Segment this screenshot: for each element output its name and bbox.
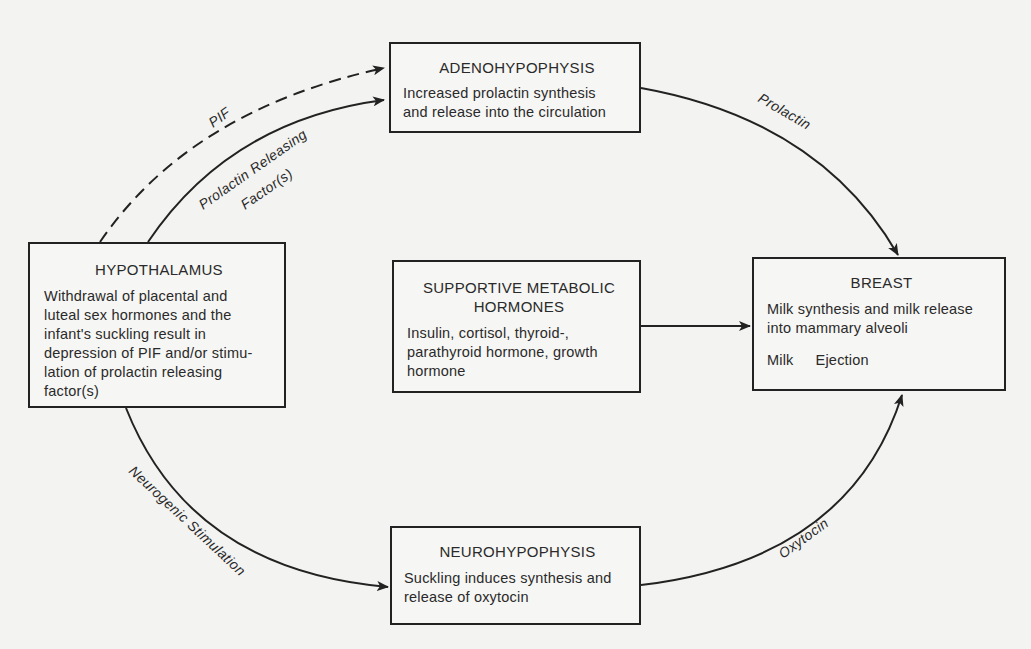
neurohypophysis-line: release of oxytocin xyxy=(404,588,631,607)
neurohypophysis-description: Suckling induces synthesis and release o… xyxy=(404,569,631,607)
milk-word: Milk xyxy=(767,352,794,368)
breast-description: Milk synthesis and milk release into mam… xyxy=(767,300,996,338)
supportive-title-line: HORMONES xyxy=(407,297,631,316)
oxytocin-arrow xyxy=(641,395,902,585)
prolactin-arrow xyxy=(641,88,898,255)
neurohypophysis-line: Suckling induces synthesis and xyxy=(404,569,631,588)
supportive-line: parathyroid hormone, growth xyxy=(407,343,631,362)
hypothalamus-line: lation of prolactin releasing xyxy=(44,363,274,382)
hypothalamus-line: depression of PIF and/or stimu- xyxy=(44,344,274,363)
pif-arrow xyxy=(100,68,384,242)
breast-title: BREAST xyxy=(767,273,996,292)
hypothalamus-description: Withdrawal of placental and luteal sex h… xyxy=(44,287,274,401)
supportive-line: hormone xyxy=(407,362,631,381)
breast-line: Milk synthesis and milk release xyxy=(767,300,996,319)
supportive-line: Insulin, cortisol, thyroid-, xyxy=(407,324,631,343)
hypothalamus-line: Withdrawal of placental and xyxy=(44,287,274,306)
prolactin-label: Prolactin xyxy=(756,90,814,133)
breast-box: BREAST Milk synthesis and milk release i… xyxy=(752,257,1006,391)
adenohypophysis-description: Increased prolactin synthesis and releas… xyxy=(403,84,631,122)
neurogenic-label: Neurogenic Stimulation xyxy=(126,462,249,578)
adenohypophysis-line: and release into the circulation xyxy=(403,103,631,122)
hypothalamus-line: infant's suckling result in xyxy=(44,325,274,344)
prf-arrow xyxy=(148,100,384,242)
lactation-hormone-diagram: PIF Prolactin Releasing Factor(s) Prolac… xyxy=(0,0,1031,649)
breast-line: into mammary alveoli xyxy=(767,319,996,338)
pif-label: PIF xyxy=(205,103,234,130)
adenohypophysis-box: ADENOHYPOPHYSIS Increased prolactin synt… xyxy=(389,42,641,133)
ejection-word: Ejection xyxy=(816,352,869,368)
hypothalamus-line: factor(s) xyxy=(44,382,274,401)
hypothalamus-title: HYPOTHALAMUS xyxy=(44,260,274,279)
neurohypophysis-title: NEUROHYPOPHYSIS xyxy=(404,542,631,561)
adenohypophysis-title: ADENOHYPOPHYSIS xyxy=(403,58,631,77)
adenohypophysis-line: Increased prolactin synthesis xyxy=(403,84,631,103)
hypothalamus-line: luteal sex hormones and the xyxy=(44,306,274,325)
supportive-hormones-description: Insulin, cortisol, thyroid-, parathyroid… xyxy=(407,324,631,381)
hypothalamus-box: HYPOTHALAMUS Withdrawal of placental and… xyxy=(28,242,286,408)
oxytocin-label: Oxytocin xyxy=(775,515,831,562)
milk-ejection: MilkEjection xyxy=(767,351,996,370)
supportive-hormones-box: SUPPORTIVE METABOLIC HORMONES Insulin, c… xyxy=(392,260,641,393)
supportive-hormones-title: SUPPORTIVE METABOLIC HORMONES xyxy=(407,278,631,316)
neurohypophysis-box: NEUROHYPOPHYSIS Suckling induces synthes… xyxy=(390,526,641,625)
supportive-title-line: SUPPORTIVE METABOLIC xyxy=(407,278,631,297)
